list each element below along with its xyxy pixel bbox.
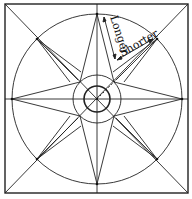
- dashed-radius: [97, 68, 128, 99]
- compass-rose-diagram: Longer Shorter: [0, 0, 192, 199]
